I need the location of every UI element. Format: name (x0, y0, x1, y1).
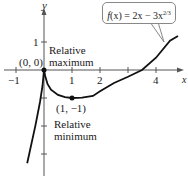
x-axis-arrow-icon (177, 68, 184, 73)
min-annotation-line1: Relative (54, 119, 91, 130)
x-tick-label-4: 4 (153, 75, 159, 86)
min-point-label: (1, −1) (56, 103, 86, 114)
max-point-label: (0, 0) (19, 57, 43, 68)
max-annotation-line2: maximum (49, 57, 94, 68)
x-axis-label: x (182, 74, 186, 85)
callout-body: (x) = 2x − 3x (110, 10, 163, 21)
callout-exponent: 2/3 (163, 10, 171, 16)
y-axis-label: y (42, 0, 47, 11)
min-annotation-line2: minimum (54, 131, 97, 142)
x-tick-label-1: 1 (69, 75, 75, 86)
function-callout: f(x) = 2x − 3x2/3 (102, 2, 176, 24)
relative-maximum-point (42, 68, 47, 73)
y-tick-label-1: 1 (33, 37, 39, 48)
max-annotation-line1: Relative (49, 45, 86, 56)
x-tick-label-neg1: −1 (8, 75, 20, 86)
plot-area (0, 0, 188, 180)
x-tick-label-2: 2 (97, 75, 103, 86)
relative-minimum-point (70, 96, 75, 101)
